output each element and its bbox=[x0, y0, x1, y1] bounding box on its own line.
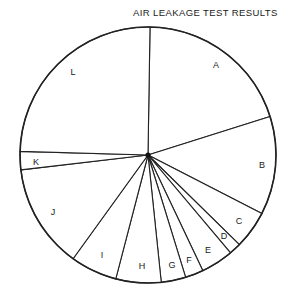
slice-label-d: D bbox=[221, 231, 228, 241]
slice-label-j: J bbox=[51, 207, 56, 217]
slice-label-g: G bbox=[168, 260, 175, 270]
slice-label-h: H bbox=[139, 261, 146, 271]
slice-label-l: L bbox=[70, 67, 75, 77]
slice-label-e: E bbox=[205, 245, 211, 255]
slice-label-k: K bbox=[33, 157, 39, 167]
pie-chart: ABCDEFGHIJKL bbox=[0, 0, 294, 301]
pie-center-hub bbox=[145, 152, 150, 157]
slice-label-i: I bbox=[101, 250, 104, 260]
slice-label-c: C bbox=[236, 216, 243, 226]
slice-label-a: A bbox=[213, 60, 219, 70]
pie-slice-l bbox=[20, 27, 150, 155]
slice-label-f: F bbox=[186, 255, 192, 265]
slice-label-b: B bbox=[259, 160, 265, 170]
